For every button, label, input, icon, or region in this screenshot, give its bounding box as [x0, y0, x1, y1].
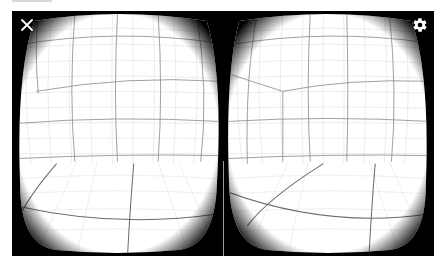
- right-lens: [227, 13, 430, 254]
- close-icon: [19, 17, 35, 33]
- left-lens: [16, 13, 219, 254]
- settings-button[interactable]: [412, 17, 428, 33]
- eye-divider-line: [223, 161, 224, 256]
- right-eye-view: [223, 11, 434, 256]
- grid-room-right: [227, 13, 430, 254]
- close-button[interactable]: [19, 17, 35, 33]
- status-bar-remnant: [12, 0, 52, 2]
- gear-icon: [412, 17, 428, 33]
- grid-room-left: [16, 13, 219, 254]
- vr-viewport: [12, 11, 434, 256]
- left-eye-view: [12, 11, 223, 256]
